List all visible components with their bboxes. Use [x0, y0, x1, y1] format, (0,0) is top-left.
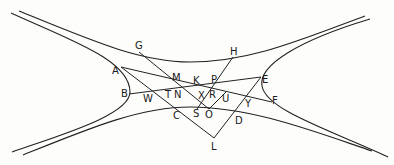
point-label-P: P	[211, 74, 217, 85]
point-label-C: C	[173, 110, 180, 121]
point-label-L: L	[211, 141, 217, 152]
point-label-U: U	[222, 93, 229, 104]
point-label-K: K	[193, 75, 200, 86]
point-label-M: M	[172, 72, 181, 83]
right-branch-curve	[262, 19, 388, 157]
point-label-Y: Y	[244, 98, 252, 109]
point-label-X: X	[198, 90, 205, 101]
upper-branch-curve	[19, 11, 365, 62]
point-label-F: F	[272, 95, 278, 106]
left-branch-curve	[11, 13, 130, 152]
point-label-O: O	[205, 109, 213, 120]
point-label-H: H	[230, 46, 238, 57]
point-labels: GHAMKPEBWTNXRUFYCSODL	[112, 40, 278, 152]
point-label-T: T	[164, 89, 172, 100]
point-label-B: B	[121, 88, 128, 99]
point-label-S: S	[193, 108, 199, 119]
diagram-canvas: GHAMKPEBWTNXRUFYCSODL	[0, 0, 394, 165]
point-label-R: R	[209, 89, 216, 100]
line-E-L	[214, 77, 261, 138]
point-label-G: G	[135, 40, 143, 51]
point-label-E: E	[262, 74, 268, 85]
point-label-A: A	[112, 65, 119, 76]
point-label-N: N	[174, 89, 181, 100]
point-label-D: D	[235, 115, 243, 126]
point-label-W: W	[143, 93, 153, 104]
pascal-hexagon-diagram: GHAMKPEBWTNXRUFYCSODL	[0, 0, 394, 165]
